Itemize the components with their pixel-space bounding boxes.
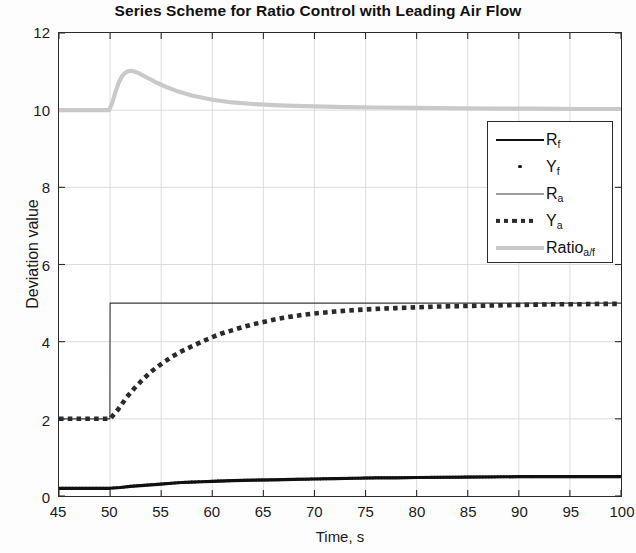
data-point bbox=[173, 482, 176, 485]
data-point bbox=[371, 476, 374, 479]
data-point bbox=[547, 475, 550, 478]
data-point bbox=[601, 475, 604, 478]
data-point bbox=[454, 476, 457, 479]
plot-svg bbox=[59, 33, 621, 496]
legend-label: Ratioa/f bbox=[546, 240, 595, 256]
data-point bbox=[354, 477, 357, 480]
data-point bbox=[342, 477, 345, 480]
data-point bbox=[553, 475, 556, 478]
data-point bbox=[132, 485, 135, 488]
data-point bbox=[430, 476, 433, 479]
data-point bbox=[466, 476, 469, 479]
data-point bbox=[301, 478, 304, 481]
data-point bbox=[363, 477, 366, 480]
legend-item-Y-f[interactable]: Yf bbox=[488, 153, 612, 180]
x-tick-label: 60 bbox=[203, 503, 220, 520]
legend-swatch-icon bbox=[494, 238, 546, 258]
data-point bbox=[586, 475, 589, 478]
x-tick-label: 90 bbox=[511, 503, 528, 520]
data-point bbox=[514, 475, 517, 478]
data-point bbox=[592, 475, 595, 478]
data-point bbox=[339, 477, 342, 480]
legend-item-Y-a[interactable]: Ya bbox=[488, 207, 612, 234]
x-tick-label: 45 bbox=[50, 503, 67, 520]
data-point bbox=[68, 487, 71, 490]
data-point bbox=[126, 485, 129, 488]
data-point bbox=[598, 475, 601, 478]
data-point bbox=[496, 475, 499, 478]
data-point bbox=[380, 476, 383, 479]
data-point bbox=[95, 487, 98, 490]
data-point bbox=[478, 476, 481, 479]
data-point bbox=[487, 475, 490, 478]
data-point bbox=[436, 476, 439, 479]
data-point bbox=[348, 477, 351, 480]
data-point bbox=[418, 476, 421, 479]
data-point bbox=[508, 475, 511, 478]
data-point bbox=[246, 479, 249, 482]
data-point bbox=[243, 479, 246, 482]
data-point bbox=[351, 477, 354, 480]
data-point bbox=[64, 487, 67, 490]
figure-canvas: Series Scheme for Ratio Control with Lea… bbox=[0, 0, 636, 553]
y-tick-label: 2 bbox=[8, 411, 50, 428]
data-point bbox=[304, 478, 307, 481]
data-point bbox=[75, 487, 78, 490]
y-tick-label: 0 bbox=[8, 489, 50, 506]
legend-swatch-icon bbox=[494, 130, 546, 150]
data-point bbox=[607, 475, 610, 478]
data-point bbox=[395, 476, 398, 479]
data-point bbox=[377, 476, 380, 479]
data-point bbox=[139, 484, 142, 487]
data-point bbox=[526, 475, 529, 478]
data-point bbox=[398, 476, 401, 479]
data-point bbox=[307, 478, 310, 481]
data-point bbox=[160, 483, 163, 486]
data-point bbox=[328, 477, 331, 480]
data-point bbox=[580, 475, 583, 478]
legend-item-R-f[interactable]: Rf bbox=[488, 126, 612, 153]
y-axis-label: Deviation value bbox=[24, 129, 42, 379]
data-point bbox=[109, 487, 112, 490]
legend-swatch-icon bbox=[494, 184, 546, 204]
data-point bbox=[255, 479, 258, 482]
data-point bbox=[231, 479, 234, 482]
data-point bbox=[484, 475, 487, 478]
data-point bbox=[170, 482, 173, 485]
x-tick-label: 65 bbox=[255, 503, 272, 520]
data-point bbox=[333, 477, 336, 480]
data-point bbox=[153, 483, 156, 486]
data-point bbox=[325, 477, 328, 480]
data-point bbox=[263, 478, 266, 481]
x-tick-label: 85 bbox=[460, 503, 477, 520]
x-tick-label: 80 bbox=[409, 503, 426, 520]
data-point bbox=[322, 477, 325, 480]
data-point bbox=[98, 487, 101, 490]
gridlines bbox=[59, 33, 621, 496]
data-point bbox=[577, 475, 580, 478]
data-point bbox=[287, 478, 290, 481]
data-point bbox=[589, 475, 592, 478]
legend-item-Ratio-a-f[interactable]: Ratioa/f bbox=[488, 234, 612, 261]
data-point bbox=[234, 479, 237, 482]
legend-item-R-a[interactable]: Ra bbox=[488, 180, 612, 207]
data-point bbox=[149, 483, 152, 486]
data-point bbox=[427, 476, 430, 479]
data-point bbox=[360, 477, 363, 480]
data-point bbox=[511, 475, 514, 478]
data-point bbox=[275, 478, 278, 481]
data-point bbox=[119, 486, 122, 489]
data-point bbox=[112, 487, 115, 490]
x-tick-label: 95 bbox=[562, 503, 579, 520]
data-point bbox=[556, 475, 559, 478]
data-point bbox=[475, 476, 478, 479]
legend-swatch-icon bbox=[494, 157, 546, 177]
x-tick-label: 50 bbox=[101, 503, 118, 520]
data-point bbox=[535, 475, 538, 478]
data-point bbox=[217, 480, 220, 483]
data-point bbox=[523, 475, 526, 478]
data-point bbox=[412, 476, 415, 479]
data-point bbox=[143, 484, 146, 487]
data-point bbox=[517, 475, 520, 478]
data-point bbox=[538, 475, 541, 478]
